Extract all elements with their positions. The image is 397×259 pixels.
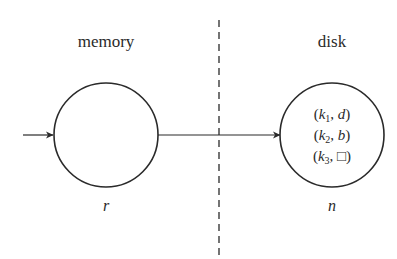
- disk-region-label: disk: [318, 32, 347, 51]
- diagram-canvas: memory disk (k1, d) (k2, b) (k3, □) r n: [0, 0, 397, 259]
- tuple-3: (k3, □): [313, 148, 351, 166]
- memory-region-label: memory: [78, 32, 135, 51]
- tuple-1: (k1, d): [314, 106, 351, 124]
- node-label-n: n: [328, 197, 336, 214]
- node-label-r: r: [103, 197, 110, 214]
- memory-node-r: [54, 83, 158, 187]
- tuple-2: (k2, b): [314, 127, 351, 145]
- empty-box-icon: □: [337, 148, 346, 164]
